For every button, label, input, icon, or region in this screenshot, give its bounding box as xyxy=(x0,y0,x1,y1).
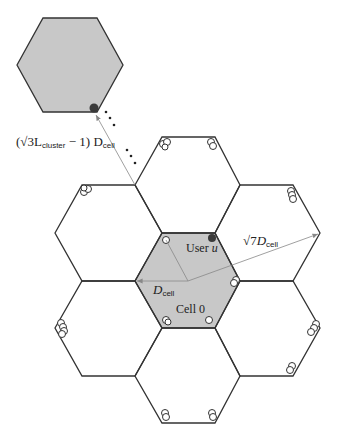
cluster-arrow xyxy=(96,115,135,185)
sqrt7-d-var: D xyxy=(257,233,266,248)
sqrt7-sub: cell xyxy=(266,240,278,249)
cluster-sub: cluster xyxy=(42,141,66,150)
cellular-hex-diagram xyxy=(0,0,340,441)
sqrt7-text: √7 xyxy=(243,233,257,248)
sqrt7-label: √7Dcell xyxy=(243,234,278,249)
distant-user-icon xyxy=(90,104,99,113)
cluster-close: − 1) D xyxy=(65,134,102,149)
user-var: u xyxy=(212,241,218,255)
cluster-dcell-sub: cell xyxy=(103,141,115,150)
dcell-label: Dcell xyxy=(153,283,174,298)
dcell-sub: cell xyxy=(162,289,174,298)
cluster-label: (√3Lcluster − 1) Dcell xyxy=(16,135,115,150)
dcell-var: D xyxy=(153,282,162,297)
user-u-label: User u xyxy=(186,242,218,254)
distant-cell xyxy=(17,18,123,112)
cluster-open: (√3L xyxy=(16,134,42,149)
user-prefix: User xyxy=(186,241,212,255)
cell0-label: Cell 0 xyxy=(176,303,205,315)
